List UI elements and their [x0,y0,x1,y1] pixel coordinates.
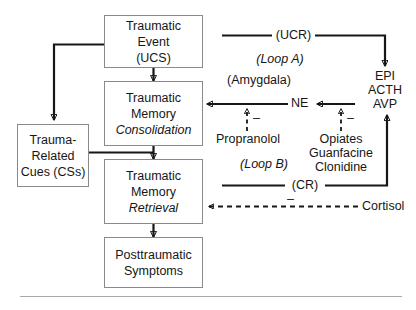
box-traumatic-memory-retrieval: Traumatic Memory Retrieval [104,159,203,224]
box-line: Traumatic [126,90,181,106]
box-line: Memory [131,184,176,200]
minus-sign-opiates: – [347,113,354,123]
box-line-emphasis: Consolidation [116,122,192,138]
box-line: Traumatic [126,18,181,34]
ptsd-neurocircuitry-diagram: Traumatic Event (UCS) Traumatic Memory C… [0,0,416,310]
box-line: Trauma- [30,132,77,148]
minus-sign-propranolol: – [253,113,260,123]
box-line: Posttraumatic [115,247,191,263]
label-epi: EPI [361,69,409,84]
label-clonidine: Clonidine [300,160,382,175]
label-avp: AVP [361,97,409,112]
box-line: Symptoms [124,263,183,279]
box-posttraumatic-symptoms: Posttraumatic Symptoms [104,237,203,288]
label-guanfacine: Guanfacine [300,146,382,161]
label-acth: ACTH [358,83,412,98]
minus-sign-cortisol: – [287,194,294,204]
wire-ucr-right-segment [315,36,385,67]
box-line: (UCS) [136,50,171,66]
wire-event-to-cues [54,45,104,121]
box-trauma-related-cues: Trauma- Related Cues (CSs) [17,124,89,187]
label-propranolol: Propranolol [209,132,287,147]
box-traumatic-event: Traumatic Event (UCS) [104,15,203,68]
box-traumatic-memory-consolidation: Traumatic Memory Consolidation [104,81,203,146]
label-loop-a: (Loop A) [248,52,312,67]
label-cortisol: Cortisol [362,199,404,214]
label-opiates: Opiates [300,132,382,147]
box-line: Cues (CSs) [21,164,86,180]
box-line: Memory [131,106,176,122]
box-line: Event [138,34,170,50]
label-amygdala: (Amygdala) [215,73,303,88]
label-loop-b: (Loop B) [232,157,296,172]
label-ne: NE [291,96,308,111]
label-ucr: (UCR) [272,28,315,43]
box-line-emphasis: Retrieval [129,200,178,216]
box-line: Traumatic [126,168,181,184]
bottom-divider-rule [20,296,402,297]
box-line: Related [31,148,74,164]
label-cr: (CR) [285,178,325,193]
